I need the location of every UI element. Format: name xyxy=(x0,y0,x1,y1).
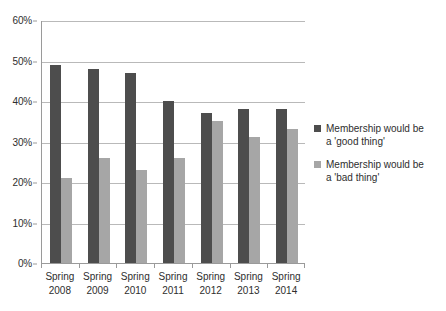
x-category-label-line: 2014 xyxy=(267,284,305,298)
chart-legend: Membership would bea 'good thing'Members… xyxy=(314,122,442,194)
x-category-label: Spring2014 xyxy=(267,270,305,298)
x-category-label: Spring2011 xyxy=(154,270,192,298)
y-tick-mark-0 xyxy=(33,264,37,265)
bar xyxy=(249,137,260,263)
bar xyxy=(88,69,99,263)
legend-entry[interactable]: Membership would bea 'bad thing' xyxy=(314,158,442,184)
bar xyxy=(50,65,61,263)
y-tick-mark-50 xyxy=(33,61,37,62)
bar-group xyxy=(117,21,155,263)
x-tick-mark xyxy=(41,264,42,268)
bar xyxy=(174,158,185,263)
x-tick-mark xyxy=(192,264,193,268)
x-category-label-line: 2012 xyxy=(192,284,230,298)
x-category-label-line: Spring xyxy=(192,270,230,284)
bar-chart: 0%10%20%30%40%50%60% Spring2008Spring200… xyxy=(0,0,446,311)
bar-group xyxy=(193,21,231,263)
bar xyxy=(287,129,298,263)
x-category-label: Spring2010 xyxy=(116,270,154,298)
y-tick-label-20: 20% xyxy=(13,178,32,188)
x-tick-mark xyxy=(154,264,155,268)
legend-entry[interactable]: Membership would bea 'good thing' xyxy=(314,122,442,148)
x-tick-mark xyxy=(304,264,305,268)
y-tick-mark-30 xyxy=(33,142,37,143)
y-tick-label-0: 0% xyxy=(18,259,32,269)
x-tick-mark xyxy=(116,264,117,268)
y-tick-mark-60 xyxy=(33,21,37,22)
legend-swatch-icon xyxy=(314,161,321,168)
x-category-label: Spring2012 xyxy=(192,270,230,298)
x-category-label: Spring2013 xyxy=(230,270,268,298)
plot-area xyxy=(41,21,305,264)
bar xyxy=(212,121,223,263)
y-tick-mark-20 xyxy=(33,183,37,184)
x-tick-mark xyxy=(267,264,268,268)
x-category-label: Spring2008 xyxy=(41,270,79,298)
bar xyxy=(276,109,287,263)
x-category-label-line: 2008 xyxy=(41,284,79,298)
x-category-label-line: Spring xyxy=(154,270,192,284)
y-tick-label-40: 40% xyxy=(13,97,32,107)
bars-layer xyxy=(42,21,305,263)
x-category-label: Spring2009 xyxy=(79,270,117,298)
x-category-label-line: Spring xyxy=(41,270,79,284)
y-tick-label-60: 60% xyxy=(13,16,32,26)
bar xyxy=(238,109,249,263)
bar xyxy=(125,73,136,263)
x-category-label-line: Spring xyxy=(230,270,268,284)
x-category-label-line: Spring xyxy=(79,270,117,284)
legend-label: Membership would bea 'bad thing' xyxy=(326,158,424,184)
legend-label: Membership would bea 'good thing' xyxy=(326,122,424,148)
x-tick-mark xyxy=(230,264,231,268)
y-tick-mark-40 xyxy=(33,102,37,103)
bar-group xyxy=(80,21,118,263)
y-tick-mark-10 xyxy=(33,223,37,224)
bar xyxy=(99,158,110,263)
y-axis: 0%10%20%30%40%50%60% xyxy=(0,21,37,264)
x-category-label-line: 2009 xyxy=(79,284,117,298)
x-category-label-line: 2010 xyxy=(116,284,154,298)
bar xyxy=(136,170,147,263)
x-category-label-line: Spring xyxy=(267,270,305,284)
bar xyxy=(61,178,72,263)
legend-swatch-icon xyxy=(314,125,321,132)
x-category-label-line: 2013 xyxy=(230,284,268,298)
bar-group xyxy=(155,21,193,263)
x-category-label-line: Spring xyxy=(116,270,154,284)
y-tick-label-10: 10% xyxy=(13,219,32,229)
y-tick-label-50: 50% xyxy=(13,57,32,67)
x-axis-labels: Spring2008Spring2009Spring2010Spring2011… xyxy=(41,270,305,304)
y-tick-label-30: 30% xyxy=(13,138,32,148)
bar-group xyxy=(231,21,269,263)
x-tick-mark xyxy=(79,264,80,268)
bar xyxy=(201,113,212,263)
x-category-label-line: 2011 xyxy=(154,284,192,298)
bar xyxy=(163,101,174,263)
bar-group xyxy=(42,21,80,263)
x-axis-ticks xyxy=(41,264,305,268)
bar-group xyxy=(268,21,306,263)
